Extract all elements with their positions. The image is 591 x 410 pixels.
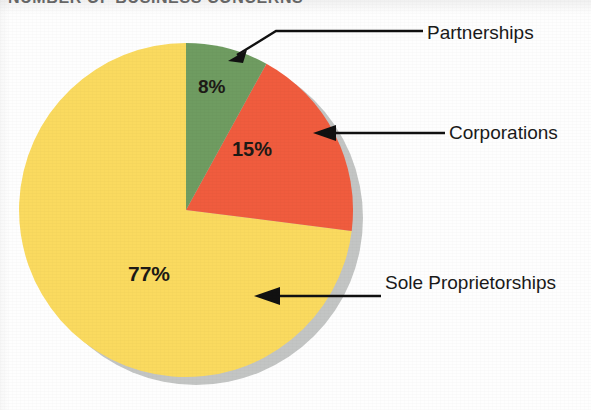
leader-line-corporations	[313, 125, 445, 141]
slice-value-partnerships: 8%	[198, 76, 225, 98]
slice-value-corporations: 15%	[232, 138, 272, 161]
chart-page: NUMBER OF BUSINESS CONCERNS 8% 15% 77%	[0, 0, 591, 410]
callout-label-corporations: Corporations	[449, 122, 558, 144]
callout-label-partnerships: Partnerships	[427, 22, 534, 44]
leader-line-partnerships	[228, 31, 423, 63]
callout-label-sole-proprietorships: Sole Proprietorships	[385, 272, 556, 294]
slice-value-sole-proprietorships: 77%	[128, 262, 170, 286]
pie-chart-graphic	[0, 0, 591, 410]
